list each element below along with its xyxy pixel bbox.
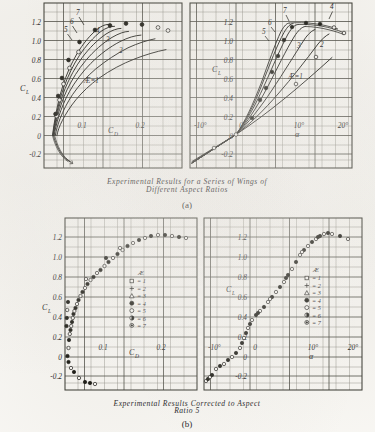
tick-cl-1: 1.2 bbox=[238, 233, 248, 242]
figure-root: 1.2 1.0 0.8 0.6 0.4 0.2 0 -0.2 C L 0.1 0… bbox=[0, 0, 375, 432]
tick-cl-8: -0.2 bbox=[221, 150, 233, 159]
legend-item-ar4: = 4 bbox=[305, 297, 321, 304]
tick-cl-7: 0 bbox=[243, 353, 247, 362]
tick-cl-4: 0.6 bbox=[238, 293, 248, 302]
square-open-icon bbox=[130, 279, 134, 283]
tick-cl-7: 0 bbox=[58, 353, 62, 362]
curve-label-ar5: 5 bbox=[64, 26, 68, 34]
tick-alpha-4: 20° bbox=[338, 121, 348, 130]
legend-label-ar4: = 4 bbox=[312, 297, 321, 304]
tick-cd-2: 0.2 bbox=[135, 121, 145, 130]
tick-cl-5: 0.4 bbox=[53, 313, 63, 322]
legend-title: Æ bbox=[137, 269, 144, 276]
tick-cl-6: 0.2 bbox=[53, 333, 63, 342]
legend-label-ar7: = 7 bbox=[137, 322, 147, 329]
cd-axis-title: C D bbox=[129, 348, 139, 359]
legend-item-ar2: = 2 bbox=[130, 285, 146, 292]
legend-label-ar2: = 2 bbox=[312, 282, 321, 289]
tick-cl-6: 0.2 bbox=[32, 113, 42, 122]
tick-cl-8: -0.2 bbox=[235, 372, 247, 381]
curve-label-ar7: 7 bbox=[76, 9, 80, 17]
tick-cl-5: 0.4 bbox=[32, 94, 42, 103]
legend-item-ar6: = 6 bbox=[130, 315, 147, 322]
curve-label-ar2: 2 bbox=[119, 47, 123, 55]
legend-label-ar5: = 5 bbox=[312, 304, 321, 311]
tick-alpha-1: -10° bbox=[208, 343, 221, 352]
tick-cl-4: 0.6 bbox=[32, 75, 42, 84]
caption-a: Experimental Results for a Series of Win… bbox=[106, 177, 268, 210]
curve-label-ar7: 7 bbox=[283, 7, 287, 15]
panel-b-left: 1.2 1.0 0.8 0.6 0.4 0.2 0 -0.2 C L 0.1 0… bbox=[42, 218, 197, 390]
cl-axis-title: C L bbox=[42, 303, 51, 314]
tick-cl-6: 0.2 bbox=[224, 113, 234, 122]
tick-alpha-1: -10° bbox=[194, 121, 207, 130]
tick-cl-2: 1.0 bbox=[53, 253, 63, 262]
tick-cl-3: 0.8 bbox=[238, 273, 248, 282]
tick-cl-2: 1.0 bbox=[32, 37, 42, 46]
cd-subscript: D bbox=[134, 353, 139, 359]
legend-item-ar2: = 2 bbox=[305, 282, 321, 289]
curve-ar5 bbox=[192, 25, 298, 164]
legend-item-ar3: = 3 bbox=[305, 289, 321, 296]
legend-label-ar4: = 4 bbox=[137, 300, 146, 307]
curve-label-ar5: 5 bbox=[262, 28, 266, 36]
tick-cl-1: 1.2 bbox=[32, 18, 42, 27]
caption-b: Experimental Results Corrected to Aspect… bbox=[113, 399, 261, 429]
cl-axis-title: C L bbox=[226, 285, 235, 296]
circle-filled-icon bbox=[305, 298, 309, 302]
tick-cl-8: -0.2 bbox=[50, 372, 62, 381]
scatter-points bbox=[65, 233, 188, 385]
panel-a-left: 1.2 1.0 0.8 0.6 0.4 0.2 0 -0.2 C L 0.1 0… bbox=[20, 3, 182, 168]
tick-alpha-2: 0 bbox=[253, 343, 257, 352]
alpha-label: α bbox=[295, 130, 300, 139]
tick-alpha-3: 10° bbox=[294, 121, 304, 130]
legend-item-ar5: = 5 bbox=[305, 304, 321, 311]
cl-subscript: L bbox=[217, 70, 221, 76]
tick-cl-3: 0.8 bbox=[53, 273, 63, 282]
tick-cl-2: 1.0 bbox=[238, 253, 248, 262]
curve-label-ar2: 2 bbox=[320, 41, 324, 49]
legend-label-ar1: = 1 bbox=[137, 277, 146, 284]
cd-subscript: D bbox=[113, 131, 118, 137]
tick-alpha-3: 10° bbox=[308, 343, 318, 352]
curve-ar7 bbox=[192, 23, 290, 163]
cd-axis-title: C D bbox=[108, 126, 118, 137]
curve-label-ar6: 6 bbox=[268, 19, 272, 27]
legend-label-ar6: = 6 bbox=[312, 312, 322, 319]
tick-cd-1: 0.1 bbox=[77, 121, 86, 130]
panel-a-right: 1.2 1.0 0.8 0.6 0.4 0.2 0 -0.2 C L -10° … bbox=[190, 3, 352, 168]
cl-axis-title: C L bbox=[212, 65, 221, 76]
cl-subscript: L bbox=[231, 290, 235, 296]
legend-item-ar1: = 1 bbox=[305, 274, 321, 281]
legend-label-ar3: = 3 bbox=[312, 289, 321, 296]
legend-item-ar6: = 6 bbox=[305, 312, 322, 319]
circle-filled-icon bbox=[130, 301, 134, 305]
legend-item-ar1: = 1 bbox=[130, 277, 146, 284]
minor-grid bbox=[204, 218, 362, 390]
alpha-axis-ticks: -10° 0 10° 20° bbox=[194, 121, 348, 130]
curve-ar4 bbox=[192, 27, 305, 164]
legend-label-ar6: = 6 bbox=[137, 315, 147, 322]
square-open-icon bbox=[305, 276, 309, 280]
tick-cl-1: 1.2 bbox=[53, 233, 63, 242]
tick-cl-3: 0.8 bbox=[224, 56, 234, 65]
circle-open-icon bbox=[305, 306, 309, 310]
legend-item-ar7: = 7 bbox=[130, 322, 147, 329]
curve-label-ar6: 6 bbox=[70, 18, 74, 26]
legend-label-ar2: = 2 bbox=[137, 285, 146, 292]
alpha-label: α bbox=[309, 352, 314, 361]
tick-cl-1: 1.2 bbox=[224, 18, 234, 27]
legend-item-ar3: = 3 bbox=[130, 292, 146, 299]
tick-cl-7: 0 bbox=[37, 132, 41, 141]
legend-label-ar3: = 3 bbox=[137, 292, 146, 299]
tick-cl-2: 1.0 bbox=[224, 37, 234, 46]
caption-b-line2: Ratio 5 bbox=[173, 406, 200, 415]
triangle-open-icon bbox=[305, 291, 310, 295]
legend-item-ar5: = 5 bbox=[130, 307, 146, 314]
curve-label-ar3: 3 bbox=[296, 42, 301, 50]
curve-label-ar4: 4 bbox=[330, 3, 334, 11]
cl-axis-ticks: 1.2 1.0 0.8 0.6 0.4 0.2 0 -0.2 bbox=[50, 233, 62, 381]
circle-open-icon bbox=[130, 309, 134, 313]
cl-subscript: L bbox=[47, 308, 51, 314]
tick-cl-5: 0.4 bbox=[224, 94, 234, 103]
